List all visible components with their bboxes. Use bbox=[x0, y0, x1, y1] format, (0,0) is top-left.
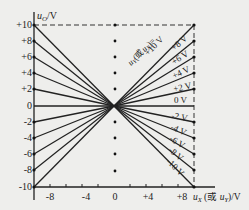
svg-text:+2: +2 bbox=[21, 83, 32, 94]
svg-text:+10 V: +10 V bbox=[142, 34, 165, 57]
svg-text:+8 V: +8 V bbox=[169, 33, 190, 53]
center-points bbox=[113, 23, 116, 172]
svg-text:-8: -8 bbox=[46, 191, 54, 202]
svg-text:-2: -2 bbox=[24, 116, 32, 127]
svg-text:-8: -8 bbox=[24, 164, 32, 175]
svg-text:-10: -10 bbox=[19, 181, 32, 192]
svg-text:-4: -4 bbox=[82, 191, 90, 202]
svg-text:+4: +4 bbox=[143, 191, 154, 202]
svg-text:0: 0 bbox=[27, 100, 32, 111]
svg-text:+8: +8 bbox=[177, 191, 188, 202]
svg-text:-4: -4 bbox=[24, 132, 32, 143]
svg-text:0 V: 0 V bbox=[174, 95, 188, 105]
svg-text:-10 V: -10 V bbox=[165, 156, 187, 178]
svg-text:+6: +6 bbox=[21, 51, 32, 62]
x-axis-label: uX (或 uY)/V bbox=[193, 191, 241, 203]
x-tick-labels: -8 -4 0 +4 +8 bbox=[46, 191, 187, 202]
transfer-characteristic-diagram: uO/V +10 +8 +6 +4 +2 0 -2 -4 -6 -8 -10 -… bbox=[0, 0, 249, 210]
left-lines bbox=[34, 25, 114, 187]
y-axis-label: uO/V bbox=[37, 10, 58, 23]
svg-text:+8: +8 bbox=[21, 35, 32, 46]
svg-text:0: 0 bbox=[113, 191, 118, 202]
svg-text:-6: -6 bbox=[24, 148, 32, 159]
svg-text:+10: +10 bbox=[16, 19, 32, 30]
y-tick-labels: +10 +8 +6 +4 +2 0 -2 -4 -6 -8 -10 bbox=[16, 19, 32, 192]
svg-text:+2 V: +2 V bbox=[172, 80, 192, 94]
svg-text:+4: +4 bbox=[21, 67, 32, 78]
